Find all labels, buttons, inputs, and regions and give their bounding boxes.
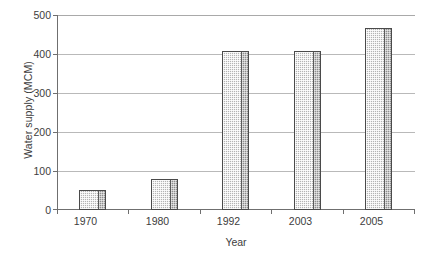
y-tick-mark-100: [53, 171, 57, 172]
y-tick-label-400: 400: [25, 49, 51, 60]
bar-slot-1980: [151, 15, 178, 210]
bar-1980[interactable]: [151, 179, 178, 210]
x-tick-label-1980: 1980: [126, 216, 189, 227]
bar-chart-figure: Water supply (MCM) 500 400 300 200 100 0: [0, 0, 427, 261]
y-tick-mark-400: [53, 54, 57, 55]
x-tick-mark-0: [57, 210, 58, 214]
bar-side-face-2005: [384, 29, 391, 209]
y-tick-label-0: 0: [25, 205, 51, 216]
bar-slot-1992: [222, 15, 249, 210]
y-tick-mark-500: [53, 15, 57, 16]
y-tick-label-500: 500: [25, 10, 51, 21]
bar-slot-2003: [294, 15, 321, 210]
y-tick-label-200: 200: [25, 127, 51, 138]
x-tick-label-2003: 2003: [269, 216, 332, 227]
bar-side-face-1970: [98, 191, 105, 209]
x-tick-mark-4: [343, 210, 344, 214]
bar-side-face-1992: [241, 52, 248, 209]
y-axis-tick-labels: 500 400 300 200 100 0: [21, 0, 51, 261]
x-tick-label-2005: 2005: [340, 216, 403, 227]
bar-1992[interactable]: [222, 51, 249, 210]
bar-side-face-1980: [170, 180, 177, 209]
y-tick-mark-200: [53, 132, 57, 133]
bar-slot-2005: [365, 15, 392, 210]
x-tick-label-1992: 1992: [197, 216, 260, 227]
bar-2005[interactable]: [365, 28, 392, 210]
bar-side-face-2003: [313, 52, 320, 209]
y-tick-label-300: 300: [25, 88, 51, 99]
x-tick-mark-5: [414, 210, 415, 214]
x-tick-label-1970: 1970: [54, 216, 117, 227]
x-axis-title: Year: [57, 236, 415, 248]
y-tick-label-100: 100: [25, 166, 51, 177]
bar-2003[interactable]: [294, 51, 321, 210]
y-tick-mark-300: [53, 93, 57, 94]
x-tick-mark-1: [128, 210, 129, 214]
x-tick-mark-3: [271, 210, 272, 214]
bar-1970[interactable]: [79, 190, 106, 210]
plot-area: [57, 15, 415, 210]
bar-slot-1970: [79, 15, 106, 210]
y-axis-line: [57, 15, 58, 210]
x-tick-mark-2: [200, 210, 201, 214]
